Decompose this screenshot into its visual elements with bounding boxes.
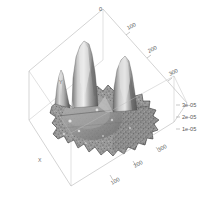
axis-title-y: Y	[59, 79, 63, 85]
z-tick-label-1e-05: 1e-05	[182, 126, 196, 132]
x-tick-label-300: 300	[157, 143, 168, 153]
z-tick-label-3e-05: 3e-05	[182, 102, 196, 108]
x-tick-label-200: 200	[133, 159, 144, 169]
axis-title-x: X	[38, 157, 42, 163]
y-tick-label-0: 0	[99, 6, 102, 12]
y-tick-label-100: 100	[126, 21, 137, 30]
surface-plot-figure: 0 100 200 300 3e-05 2e-05 1e-05 300 200 …	[0, 0, 207, 204]
plot-canvas: 0 100 200 300 3e-05 2e-05 1e-05 300 200 …	[0, 0, 207, 204]
x-tick-label-100: 100	[110, 176, 121, 186]
z-tick-label-2e-05: 2e-05	[182, 114, 196, 120]
y-tick-label-300: 300	[168, 67, 179, 76]
surface-mesh	[45, 41, 165, 160]
y-tick-label-200: 200	[147, 44, 158, 53]
